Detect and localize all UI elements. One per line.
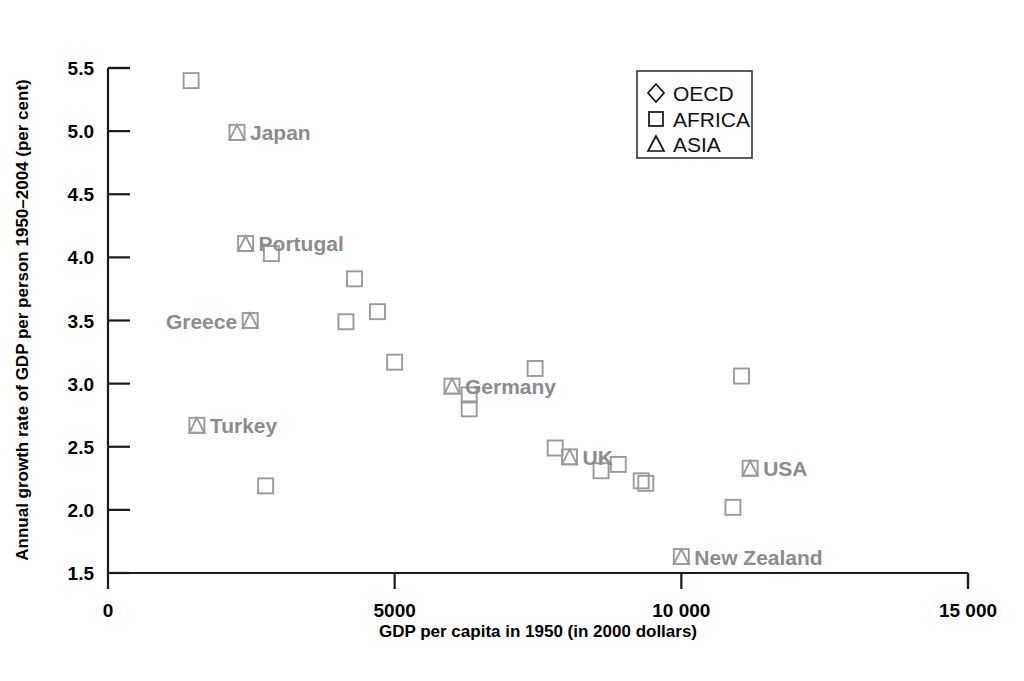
data-point — [611, 457, 626, 472]
x-tick-label: 0 — [103, 600, 114, 621]
x-axis-ticks: 0500010 00015 000 — [103, 573, 997, 621]
legend-label-oecd: OECD — [673, 82, 734, 105]
data-point — [548, 441, 563, 456]
data-point — [528, 361, 543, 376]
data-point-uk — [562, 449, 577, 464]
data-point-portugal — [238, 236, 253, 251]
data-point-turkey — [189, 418, 204, 433]
point-label-germany: Germany — [465, 375, 556, 398]
data-point — [184, 73, 199, 88]
data-point — [347, 271, 362, 286]
y-tick-label: 2.0 — [68, 500, 94, 521]
legend-label-asia: ASIA — [673, 133, 721, 156]
y-axis-ticks: 1.52.02.53.03.54.04.55.05.5 — [68, 58, 130, 584]
x-tick-label: 10 000 — [652, 600, 710, 621]
y-tick-label: 5.5 — [68, 58, 95, 79]
chart-figure: 1.52.02.53.03.54.04.55.05.5 0500010 0001… — [0, 0, 1024, 681]
x-tick-label: 5000 — [374, 600, 416, 621]
y-tick-label: 2.5 — [68, 437, 95, 458]
point-label-new-zealand: New Zealand — [694, 546, 822, 569]
data-point-greece — [243, 313, 258, 328]
scatter-plot-canvas: 1.52.02.53.03.54.04.55.05.5 0500010 0001… — [0, 0, 1024, 681]
y-tick-label: 5.0 — [68, 121, 94, 142]
point-label-uk: UK — [583, 446, 613, 469]
x-axis-title: GDP per capita in 1950 (in 2000 dollars) — [379, 622, 697, 641]
x-tick-label: 15 000 — [939, 600, 997, 621]
data-point — [258, 478, 273, 493]
y-tick-label: 4.5 — [68, 184, 95, 205]
data-point — [370, 304, 385, 319]
data-point — [462, 401, 477, 416]
data-point-new-zealand — [674, 549, 689, 564]
legend: OECDAFRICAASIA — [637, 71, 752, 158]
y-tick-label: 4.0 — [68, 247, 94, 268]
data-point-usa — [743, 461, 758, 476]
data-point — [338, 314, 353, 329]
legend-label-africa: AFRICA — [673, 108, 750, 131]
point-label-greece: Greece — [166, 310, 237, 333]
point-label-turkey: Turkey — [210, 414, 278, 437]
data-point — [387, 355, 402, 370]
data-point-germany — [445, 379, 460, 394]
point-labels: JapanPortugalGreeceGermanyTurkeyUKUSANew… — [166, 121, 823, 568]
y-axis-title: Annual growth rate of GDP per person 195… — [13, 79, 32, 561]
y-tick-label: 1.5 — [68, 563, 95, 584]
point-label-japan: Japan — [250, 121, 311, 144]
y-tick-label: 3.0 — [68, 374, 94, 395]
point-label-usa: USA — [763, 457, 807, 480]
point-label-portugal: Portugal — [259, 232, 344, 255]
y-tick-label: 3.5 — [68, 311, 95, 332]
data-point — [734, 369, 749, 384]
data-point — [725, 500, 740, 515]
data-point-japan — [230, 125, 245, 140]
